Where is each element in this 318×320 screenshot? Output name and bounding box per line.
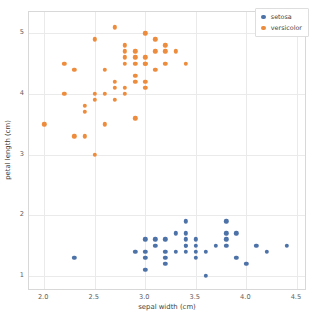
data-point-setosa — [72, 255, 76, 259]
data-point-setosa — [264, 249, 268, 253]
data-point-setosa — [163, 262, 167, 266]
data-point-setosa — [224, 231, 228, 235]
data-point-setosa — [173, 231, 177, 235]
legend-marker-icon-versicolor — [261, 26, 265, 30]
data-point-versicolor — [153, 67, 157, 71]
y-axis-label: petal length (cm) — [4, 120, 12, 180]
data-point-setosa — [224, 243, 228, 247]
data-point-versicolor — [93, 37, 97, 41]
data-point-versicolor — [123, 61, 127, 65]
data-point-setosa — [254, 243, 258, 247]
data-point-versicolor — [93, 152, 97, 156]
y-tick-label-5: 5 — [20, 28, 24, 36]
data-point-setosa — [153, 243, 157, 247]
data-point-versicolor — [62, 92, 66, 96]
data-point-versicolor — [153, 37, 157, 41]
y-tick-label-3: 3 — [20, 150, 24, 158]
data-point-setosa — [244, 262, 248, 266]
gridline-horizontal-2 — [29, 215, 305, 216]
legend[interactable]: setosa versicolor — [255, 8, 309, 37]
data-point-versicolor — [93, 98, 97, 102]
legend-label-setosa: setosa — [271, 13, 292, 21]
data-point-versicolor — [123, 49, 127, 53]
data-point-versicolor — [72, 67, 76, 71]
data-point-versicolor — [123, 86, 127, 90]
gridline-horizontal-4 — [29, 94, 305, 95]
gridline-vertical-3.0 — [145, 12, 146, 289]
data-point-setosa — [194, 237, 198, 241]
data-point-setosa — [133, 249, 137, 253]
data-point-setosa — [224, 237, 228, 241]
data-point-versicolor — [163, 61, 167, 65]
gridline-vertical-3.5 — [196, 12, 197, 289]
data-point-versicolor — [123, 55, 127, 59]
data-point-setosa — [173, 249, 177, 253]
data-point-setosa — [153, 237, 157, 241]
data-point-setosa — [183, 249, 187, 253]
data-point-setosa — [183, 243, 187, 247]
data-point-versicolor — [133, 49, 137, 53]
x-tick-label-4.5: 4.5 — [291, 293, 302, 301]
data-point-versicolor — [133, 116, 137, 120]
gridline-vertical-4.5 — [297, 12, 298, 289]
data-point-setosa — [143, 237, 147, 241]
data-point-versicolor — [123, 92, 127, 96]
gridline-vertical-2.5 — [95, 12, 96, 289]
x-tick-label-3.5: 3.5 — [190, 293, 201, 301]
data-point-versicolor — [143, 86, 147, 90]
data-point-versicolor — [143, 61, 147, 65]
gridline-horizontal-3 — [29, 155, 305, 156]
data-point-setosa — [194, 249, 198, 253]
legend-item-setosa[interactable]: setosa — [261, 13, 302, 21]
data-point-versicolor — [42, 122, 46, 126]
data-point-setosa — [214, 243, 218, 247]
y-tick-label-4: 4 — [20, 89, 24, 97]
data-point-versicolor — [133, 73, 137, 77]
gridline-horizontal-1 — [29, 276, 305, 277]
data-point-setosa — [183, 219, 187, 223]
data-point-setosa — [143, 249, 147, 253]
data-point-setosa — [143, 255, 147, 259]
y-tick-label-2: 2 — [20, 210, 24, 218]
data-point-setosa — [194, 243, 198, 247]
plot-area — [28, 11, 306, 290]
data-point-versicolor — [113, 25, 117, 29]
x-tick-label-2.5: 2.5 — [88, 293, 99, 301]
data-point-setosa — [234, 255, 238, 259]
scatter-plot-figure: 2.02.53.03.54.04.5 12345 sepal width (cm… — [0, 0, 318, 320]
data-point-versicolor — [133, 55, 137, 59]
data-point-versicolor — [72, 134, 76, 138]
x-tick-label-3.0: 3.0 — [139, 293, 150, 301]
data-point-versicolor — [133, 61, 137, 65]
data-point-versicolor — [163, 49, 167, 53]
legend-item-versicolor[interactable]: versicolor — [261, 24, 302, 32]
legend-label-versicolor: versicolor — [271, 24, 302, 32]
data-point-setosa — [204, 249, 208, 253]
data-point-setosa — [285, 243, 289, 247]
data-point-setosa — [224, 219, 228, 223]
data-point-versicolor — [143, 31, 147, 35]
data-point-versicolor — [113, 98, 117, 102]
data-point-setosa — [163, 249, 167, 253]
data-point-setosa — [234, 231, 238, 235]
data-point-versicolor — [82, 134, 86, 138]
x-tick-label-4.0: 4.0 — [240, 293, 251, 301]
data-point-versicolor — [103, 122, 107, 126]
data-point-versicolor — [153, 49, 157, 53]
data-point-setosa — [163, 255, 167, 259]
data-point-versicolor — [143, 55, 147, 59]
data-point-versicolor — [123, 43, 127, 47]
data-point-setosa — [163, 237, 167, 241]
y-tick-label-1: 1 — [20, 271, 24, 279]
legend-marker-icon-setosa — [261, 15, 265, 19]
data-point-versicolor — [183, 61, 187, 65]
data-point-versicolor — [103, 92, 107, 96]
data-point-setosa — [194, 255, 198, 259]
data-point-setosa — [183, 231, 187, 235]
data-point-versicolor — [82, 110, 86, 114]
data-point-setosa — [183, 237, 187, 241]
gridline-vertical-4.0 — [246, 12, 247, 289]
gridline-vertical-2.0 — [44, 12, 45, 289]
data-point-versicolor — [93, 92, 97, 96]
data-point-versicolor — [163, 43, 167, 47]
